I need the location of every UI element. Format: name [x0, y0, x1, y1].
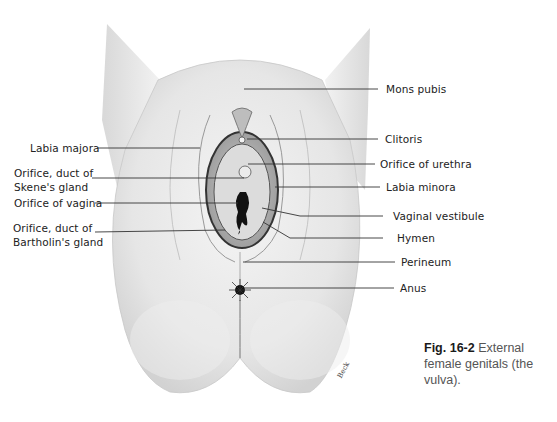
clitoris-glans [239, 137, 245, 143]
label-skenes-gland: Orifice, duct of Skene's gland [14, 166, 93, 194]
urethral-orifice [239, 166, 251, 178]
anus [229, 279, 251, 301]
label-anus: Anus [400, 281, 426, 295]
label-perineum: Perineum [401, 255, 451, 269]
figure-16-2: Labia majora Orifice, duct of Skene's gl… [0, 0, 557, 422]
label-vaginal-vestibule: Vaginal vestibule [393, 209, 484, 223]
label-bartholins-gland: Orifice, duct of Bartholin's gland [13, 221, 103, 249]
figure-number: Fig. 16-2 [424, 341, 475, 355]
label-vagina-orifice: Orifice of vagina [14, 196, 102, 210]
label-hymen: Hymen [397, 231, 435, 245]
label-clitoris: Clitoris [385, 132, 422, 146]
label-mons-pubis: Mons pubis [386, 82, 446, 96]
label-labia-minora: Labia minora [386, 180, 456, 194]
figure-caption: Fig. 16-2 External female genitals (the … [424, 340, 544, 388]
label-urethra-orifice: Orifice of urethra [380, 157, 472, 171]
label-labia-majora: Labia majora [30, 141, 100, 155]
